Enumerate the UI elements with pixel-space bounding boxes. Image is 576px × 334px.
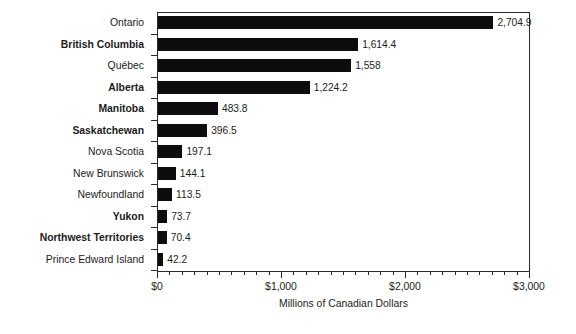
bar [158,38,358,51]
x-axis-minor-tick [368,271,369,275]
category-label: Prince Edward Island [0,254,144,265]
x-axis-minor-tick [393,271,394,275]
x-axis-minor-tick [207,271,208,275]
x-axis-major-tick [405,271,406,278]
x-axis-title: Millions of Canadian Dollars [157,298,530,309]
bar-value-label: 1,614.4 [362,38,396,51]
category-label: British Columbia [0,39,144,50]
bar [158,59,351,72]
x-axis-major-tick [157,271,158,278]
x-axis-minor-tick [293,271,294,275]
bars-container: 2,704.91,614.41,5581,224.2483.8396.5197.… [158,12,530,270]
x-axis-minor-tick [318,271,319,275]
x-axis-minor-tick [343,271,344,275]
x-axis-minor-tick [380,271,381,275]
bar [158,188,172,201]
x-axis-minor-tick [269,271,270,275]
x-axis-tick-label: $1,000 [265,281,297,293]
x-axis-minor-tick [231,271,232,275]
x-axis-minor-tick [442,271,443,275]
category-label: Saskatchewan [0,125,144,136]
x-axis-minor-tick [517,271,518,275]
x-axis-minor-tick [219,271,220,275]
x-axis-major-tick [529,271,530,278]
category-label: Nova Scotia [0,146,144,157]
x-axis-minor-tick [306,271,307,275]
category-label: Alberta [0,82,144,93]
x-axis-minor-tick [417,271,418,275]
bar-value-label: 1,558 [355,59,381,72]
bar-value-label: 144.1 [180,167,206,180]
category-label: Newfoundland [0,189,144,200]
bar-value-label: 73.7 [171,210,191,223]
category-label: New Brunswick [0,168,144,179]
bar [158,167,176,180]
category-label: Québec [0,60,144,71]
category-axis-labels: OntarioBritish ColumbiaQuébecAlbertaMani… [0,12,151,270]
x-axis-minor-tick [256,271,257,275]
x-axis-minor-tick [169,271,170,275]
x-axis-major-tick [281,271,282,278]
x-axis-tick-label: $0 [151,281,163,293]
bar [158,81,310,94]
bar-value-label: 396.5 [211,124,237,137]
x-axis-minor-tick [455,271,456,275]
x-axis-tick-label: $3,000 [513,281,545,293]
x-axis-minor-tick [492,271,493,275]
bar [158,145,182,158]
bar [158,210,167,223]
bar-value-label: 70.4 [171,231,191,244]
x-axis-minor-tick [355,271,356,275]
bar [158,102,218,115]
x-axis-ticks [157,271,530,279]
x-axis-tick-label: $2,000 [389,281,421,293]
bar-value-label: 483.8 [222,102,248,115]
x-axis-minor-tick [479,271,480,275]
bar [158,231,167,244]
category-label: Ontario [0,17,144,28]
bar-value-label: 42.2 [167,253,187,266]
category-label: Northwest Territories [0,232,144,243]
x-axis-minor-tick [467,271,468,275]
bar [158,16,493,29]
x-axis-minor-tick [194,271,195,275]
x-axis-minor-tick [182,271,183,275]
x-axis-minor-tick [504,271,505,275]
x-axis-minor-tick [244,271,245,275]
x-axis-minor-tick [331,271,332,275]
x-axis-minor-tick [430,271,431,275]
category-label: Yukon [0,211,144,222]
bar [158,124,207,137]
bar-value-label: 1,224.2 [314,81,348,94]
bar-value-label: 197.1 [186,145,212,158]
bar-value-label: 2,704.9 [497,16,531,29]
category-label: Manitoba [0,103,144,114]
bar-value-label: 113.5 [176,188,201,201]
bar-chart: OntarioBritish ColumbiaQuébecAlbertaMani… [0,0,576,334]
bar [158,253,163,266]
